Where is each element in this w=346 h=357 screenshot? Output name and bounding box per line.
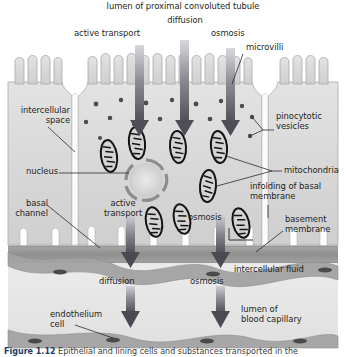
- cell-diagram-svg: [0, 0, 346, 357]
- label-endothelium-cell: endothelium cell: [50, 310, 102, 329]
- label-diffusion-top: diffusion: [150, 16, 220, 26]
- label-microvilli: microvilli: [246, 43, 283, 53]
- label-mitochondria: mitochondria: [284, 166, 339, 176]
- figure-container: lumen of proximal convoluted tubule diff…: [0, 0, 346, 357]
- label-pinocytotic-vesicles: pinocytotic vesicles: [276, 112, 322, 131]
- caption-text: Epithelial and lining cells and substanc…: [58, 347, 298, 356]
- label-infolding-basal-membrane: infolding of basal membrane: [250, 182, 321, 201]
- microvilli-right: [280, 56, 328, 85]
- label-basal-channel: basal channel: [0, 199, 48, 218]
- label-osmosis-top: osmosis: [211, 29, 244, 39]
- label-active-transport-top: active transport: [74, 29, 140, 39]
- label-lumen-tubule: lumen of proximal convoluted tubule: [88, 2, 278, 12]
- label-intercellular-fluid: intercellular fluid: [234, 265, 304, 275]
- label-diffusion-bottom: diffusion: [99, 277, 135, 287]
- label-osmosis-lower: osmosis: [188, 213, 221, 223]
- caption-prefix: Figure: [4, 347, 33, 356]
- label-intercellular-space: intercellular space: [0, 106, 70, 125]
- label-osmosis-bottom: osmosis: [190, 277, 223, 287]
- caption-number: 1.12: [36, 347, 56, 356]
- label-lumen-blood-capillary: lumen of blood capillary: [241, 305, 302, 324]
- figure-caption: Figure 1.12 Epithelial and lining cells …: [4, 347, 344, 356]
- label-nucleus: nucleus: [0, 167, 58, 177]
- label-basement-membrane: basement membrane: [285, 215, 330, 234]
- microvilli-left: [15, 56, 62, 85]
- label-active-transport-lower: active transport: [95, 199, 151, 218]
